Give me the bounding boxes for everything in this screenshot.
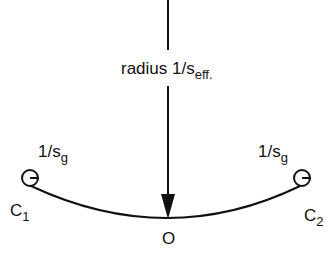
point-c1-main: C xyxy=(10,201,22,220)
right-curvature-sub: g xyxy=(281,150,288,165)
point-c2-sub: 2 xyxy=(316,214,323,229)
left-circle-minus-icon xyxy=(22,170,38,186)
left-curvature-sub: g xyxy=(61,150,68,165)
right-curvature-label: 1/sg xyxy=(258,143,288,160)
point-o-label: O xyxy=(162,230,175,247)
point-c2-main: C xyxy=(304,206,316,225)
point-c2-label: C2 xyxy=(304,207,324,224)
radius-label-main: radius 1/s xyxy=(121,59,195,78)
diagram-canvas xyxy=(0,0,334,261)
point-o-main: O xyxy=(162,229,175,248)
radius-label-sub: eff. xyxy=(195,67,213,82)
right-circle-minus-icon xyxy=(294,170,310,186)
right-curvature-main: 1/s xyxy=(258,142,281,161)
left-curvature-label: 1/sg xyxy=(38,143,68,160)
arrowhead-icon xyxy=(161,194,175,219)
point-c1-sub: 1 xyxy=(22,209,29,224)
point-c1-label: C1 xyxy=(10,202,30,219)
left-curvature-main: 1/s xyxy=(38,142,61,161)
radius-label: radius 1/seff. xyxy=(121,60,213,77)
